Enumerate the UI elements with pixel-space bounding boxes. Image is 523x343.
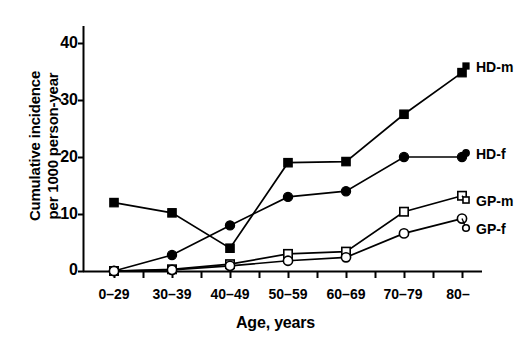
data-point-marker xyxy=(463,150,470,157)
data-point-marker xyxy=(167,250,176,259)
data-point-marker xyxy=(399,152,408,161)
data-point-marker xyxy=(463,225,470,232)
data-point-marker xyxy=(168,209,176,217)
data-point-marker xyxy=(341,253,350,262)
data-point-marker xyxy=(283,192,292,201)
data-point-marker xyxy=(109,266,118,275)
legend-markers xyxy=(463,63,470,231)
axes xyxy=(78,26,482,278)
data-point-marker xyxy=(341,187,350,196)
series-hd-m xyxy=(110,68,466,252)
data-point-marker xyxy=(284,159,292,167)
x-tick-marks xyxy=(115,272,463,278)
data-point-marker xyxy=(226,244,234,252)
data-series-layer xyxy=(109,68,466,275)
data-point-marker xyxy=(167,265,176,274)
data-point-marker xyxy=(400,208,408,216)
data-point-marker xyxy=(400,110,408,118)
data-point-marker xyxy=(399,229,408,238)
data-point-marker xyxy=(342,157,350,165)
series-gp-f xyxy=(109,214,466,276)
data-point-marker xyxy=(463,197,469,203)
chart-figure: Cumulative incidence per 1000 person-yea… xyxy=(0,0,523,343)
data-point-marker xyxy=(463,63,469,69)
data-point-marker xyxy=(110,198,118,206)
data-point-marker xyxy=(225,221,234,230)
data-point-marker xyxy=(225,261,234,270)
plot-canvas xyxy=(0,0,523,343)
data-point-marker xyxy=(283,256,292,265)
